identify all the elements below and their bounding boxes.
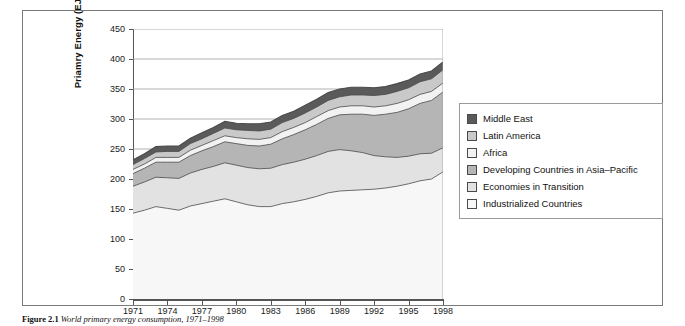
legend-item-label: Industrialized Countries [483,198,582,209]
y-axis-tick-label: 0 [95,295,125,304]
legend-swatch-icon [467,165,477,175]
y-axis-tick-label: 350 [95,85,125,94]
legend-item[interactable]: Developing Countries in Asia–Pacific [467,161,655,178]
y-axis-tick-label: 300 [95,115,125,124]
y-axis-tick-label: 250 [95,145,125,154]
x-axis-tick-mark [409,301,410,305]
legend-swatch-icon [467,199,477,209]
y-axis-tick-mark [129,89,133,90]
stacked-area-chart [133,29,443,299]
legend-item[interactable]: Middle East [467,110,655,127]
figure-caption: Figure 2.1 World primary energy consumpt… [22,314,662,324]
y-axis-tick-label: 100 [95,235,125,244]
legend-swatch-icon [467,114,477,124]
x-axis-tick-mark [305,301,306,305]
legend-item[interactable]: Latin America [467,127,655,144]
plot-area [133,29,443,299]
legend-item[interactable]: Africa [467,144,655,161]
legend-swatch-icon [467,131,477,141]
y-axis-tick-label: 450 [95,25,125,34]
y-axis-tick-mark [129,59,133,60]
legend-item-label: Developing Countries in Asia–Pacific [483,164,638,175]
legend-item[interactable]: Economies in Transition [467,178,655,195]
legend-item-label: Africa [483,147,507,158]
y-axis-tick-mark [129,179,133,180]
x-axis-tick-mark [133,301,134,305]
y-axis-tick-mark [129,299,133,300]
figure-frame: Priamry Energy (EJ) 05010015020025030035… [22,10,663,306]
y-axis-title: Priamry Energy (EJ) [72,0,83,107]
x-axis-tick-mark [271,301,272,305]
y-axis-tick-mark [129,29,133,30]
legend-item-label: Middle East [483,113,533,124]
y-axis-tick-label: 200 [95,175,125,184]
chart-legend: Middle EastLatin AmericaAfricaDeveloping… [459,103,663,219]
x-axis-tick-mark [236,301,237,305]
y-axis-tick-mark [129,239,133,240]
y-axis-tick-mark [129,269,133,270]
x-axis-tick-mark [443,301,444,305]
y-axis-tick-label: 150 [95,205,125,214]
x-axis-tick-mark [340,301,341,305]
x-axis-tick-mark [374,301,375,305]
legend-item[interactable]: Industrialized Countries [467,195,655,212]
y-axis-tick-mark [129,209,133,210]
x-axis-tick-mark [202,301,203,305]
x-axis-line [133,299,444,301]
x-axis-tick-mark [167,301,168,305]
legend-item-label: Economies in Transition [483,181,584,192]
legend-swatch-icon [467,148,477,158]
caption-text: World primary energy consumption, 1971–1… [61,314,224,324]
legend-item-label: Latin America [483,130,541,141]
y-axis-tick-mark [129,119,133,120]
y-axis-tick-label: 400 [95,55,125,64]
legend-swatch-icon [467,182,477,192]
y-axis-tick-mark [129,149,133,150]
caption-label: Figure 2.1 [22,314,59,324]
y-axis-tick-label: 50 [95,265,125,274]
